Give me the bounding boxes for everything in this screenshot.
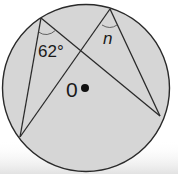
angle-label-n: n bbox=[103, 29, 112, 48]
center-dot bbox=[81, 84, 89, 92]
angle-label-62: 62° bbox=[38, 42, 64, 61]
circle-diagram: 62° n 0 bbox=[0, 0, 178, 174]
diagram-canvas: 62° n 0 bbox=[0, 0, 178, 174]
center-label: 0 bbox=[66, 78, 78, 101]
